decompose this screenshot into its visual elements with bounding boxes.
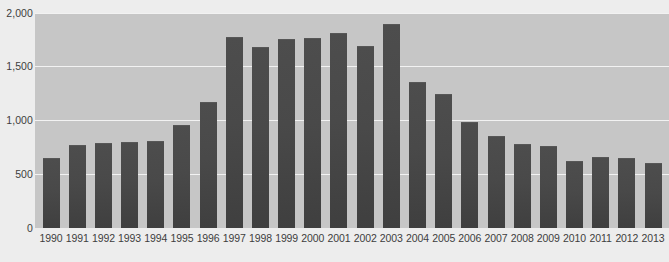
bar-slot [431,13,457,228]
x-tick-label: 2005 [431,231,457,251]
x-tick-label: 2011 [588,231,614,251]
y-tick-label: 2,000 [1,8,33,18]
bar[interactable] [43,158,60,228]
bar-slot [588,13,614,228]
x-axis: 1990199119921993199419951996199719981999… [35,231,669,251]
x-tick-label: 2013 [640,231,666,251]
x-tick-label: 1992 [90,231,116,251]
y-tick-label: 1,000 [1,115,33,125]
x-tick-label: 2008 [509,231,535,251]
bar[interactable] [95,143,112,228]
x-tick-label: 2003 [378,231,404,251]
bar-slot [561,13,587,228]
bar[interactable] [226,37,243,228]
bar-slot [143,13,169,228]
bar[interactable] [645,163,662,228]
y-axis: 2,000 1,500 1,000 500 0 [0,0,33,262]
bar[interactable] [540,146,557,228]
bar-slot [64,13,90,228]
bar-slot [117,13,143,228]
y-tick-label: 500 [1,169,33,179]
bar[interactable] [252,47,269,228]
x-tick-label: 1991 [64,231,90,251]
bar-chart: 2,000 1,500 1,000 500 0 1990199119921993… [0,0,669,262]
bar-series [35,13,669,228]
bar-slot [247,13,273,228]
bar-slot [38,13,64,228]
bar-slot [352,13,378,228]
bar-slot [535,13,561,228]
x-tick-label: 2002 [352,231,378,251]
bar-slot [640,13,666,228]
bar-slot [326,13,352,228]
bar-slot [195,13,221,228]
bar[interactable] [147,141,164,228]
bar-slot [509,13,535,228]
x-tick-label: 2001 [326,231,352,251]
bar[interactable] [278,39,295,228]
bar[interactable] [121,142,138,228]
x-tick-label: 1998 [247,231,273,251]
bar-slot [483,13,509,228]
bar[interactable] [409,82,426,228]
bar[interactable] [514,144,531,228]
bar[interactable] [435,94,452,228]
y-tick-label: 0 [1,223,33,233]
bar-slot [457,13,483,228]
x-tick-label: 1994 [143,231,169,251]
x-tick-label: 2009 [535,231,561,251]
bar[interactable] [592,157,609,228]
bar-slot [90,13,116,228]
bar[interactable] [461,122,478,228]
bar[interactable] [618,158,635,228]
x-tick-label: 2010 [561,231,587,251]
bar-slot [404,13,430,228]
bar[interactable] [69,145,86,228]
bar-slot [274,13,300,228]
bar[interactable] [200,102,217,228]
bar[interactable] [304,38,321,228]
x-tick-label: 2007 [483,231,509,251]
bar[interactable] [357,46,374,228]
bar[interactable] [566,161,583,228]
x-tick-label: 2006 [457,231,483,251]
bar-slot [221,13,247,228]
x-tick-label: 2004 [404,231,430,251]
x-tick-label: 1996 [195,231,221,251]
bar-slot [300,13,326,228]
x-tick-label: 2000 [300,231,326,251]
x-tick-label: 1997 [221,231,247,251]
bar[interactable] [383,24,400,228]
bar-slot [614,13,640,228]
bar[interactable] [488,136,505,228]
x-tick-label: 1993 [117,231,143,251]
x-tick-label: 1999 [274,231,300,251]
x-tick-label: 1990 [38,231,64,251]
bar[interactable] [173,125,190,228]
x-tick-label: 2012 [614,231,640,251]
bar-slot [378,13,404,228]
bar-slot [169,13,195,228]
bar[interactable] [330,33,347,228]
plot-area [35,13,669,228]
x-tick-label: 1995 [169,231,195,251]
y-tick-label: 1,500 [1,61,33,71]
